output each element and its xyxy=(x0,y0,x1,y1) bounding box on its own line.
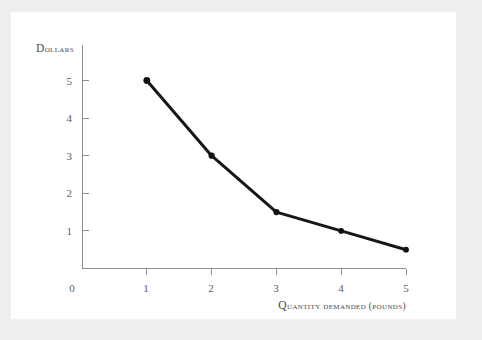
x-axis-title-rest: uantity demanded (pounds) xyxy=(287,301,406,312)
x-axis-tick-labels: 1 2 3 4 5 xyxy=(143,282,409,294)
x-tick-label-4: 4 xyxy=(338,282,344,294)
x-tick-label-3: 3 xyxy=(273,282,279,294)
y-axis-tick-labels: 5 4 3 2 1 xyxy=(67,75,73,237)
y-tick-label-2: 2 xyxy=(67,187,73,199)
x-tick-label-5: 5 xyxy=(403,282,409,294)
data-point-3 xyxy=(273,209,279,215)
data-point-5 xyxy=(403,247,409,253)
y-tick-label-3: 3 xyxy=(67,150,73,162)
origin-label: 0 xyxy=(69,282,75,294)
x-axis-title-lead: Q xyxy=(278,299,287,311)
data-point-1 xyxy=(143,77,150,84)
y-tick-label-5: 5 xyxy=(67,75,73,87)
demand-curve-chart: 5 4 3 2 1 0 1 2 3 4 5 Dollars xyxy=(11,12,456,319)
x-axis-ticks xyxy=(146,269,406,276)
data-point-2 xyxy=(209,153,215,159)
plot-area: 5 4 3 2 1 0 1 2 3 4 5 Dollars xyxy=(11,12,456,319)
x-tick-label-2: 2 xyxy=(208,282,214,294)
figure-root: 5 4 3 2 1 0 1 2 3 4 5 Dollars xyxy=(0,0,482,340)
y-tick-label-4: 4 xyxy=(67,112,73,124)
y-axis-ticks xyxy=(82,81,89,231)
figure-card: 5 4 3 2 1 0 1 2 3 4 5 Dollars xyxy=(11,12,456,319)
y-tick-label-1: 1 xyxy=(67,225,73,237)
y-axis-title-rest: ollars xyxy=(45,44,74,54)
demand-curve-line xyxy=(147,81,406,250)
x-axis-title: Quantity demanded (pounds) xyxy=(278,299,406,312)
demand-curve-markers xyxy=(143,77,409,253)
x-tick-label-1: 1 xyxy=(143,282,149,294)
y-axis-title: Dollars xyxy=(36,42,74,54)
y-axis-title-lead: D xyxy=(36,42,45,54)
data-point-4 xyxy=(338,228,344,234)
